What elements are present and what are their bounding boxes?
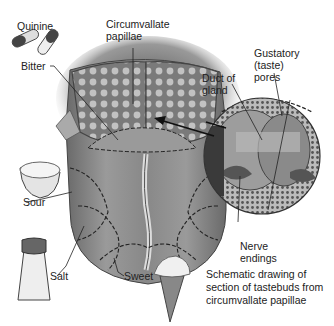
label-sour: Sour (23, 196, 45, 208)
label-circumvallate-1: Circumvallate (106, 18, 170, 30)
label-circumvallate-2: papillae (106, 30, 142, 42)
caption-line-1: Schematic drawing of (206, 268, 323, 281)
label-quinine: Quinine (17, 20, 53, 32)
caption-line-2: section of tastebuds from (206, 281, 323, 294)
label-sweet: Sweet (124, 270, 153, 282)
caption: Schematic drawing of section of tastebud… (206, 268, 323, 307)
label-salt: Salt (50, 270, 68, 282)
label-bitter: Bitter (21, 60, 46, 72)
label-duct-2: gland (202, 84, 228, 96)
ice-cream-cone-icon (154, 256, 190, 322)
salt-shaker-icon (18, 238, 50, 300)
lemon-icon (20, 162, 60, 198)
label-gustatory-3: pores (254, 71, 280, 83)
tongue-taste-diagram: Quinine Circumvallate papillae Bitter Du… (0, 0, 334, 326)
label-nerve-1: Nerve (240, 240, 268, 252)
label-nerve-2: endings (240, 252, 277, 264)
label-duct-1: Duct of (202, 72, 235, 84)
label-gustatory-1: Gustatory (254, 47, 300, 59)
caption-line-3: circumvallate papillae (206, 294, 323, 307)
label-gustatory-2: (taste) (254, 59, 284, 71)
